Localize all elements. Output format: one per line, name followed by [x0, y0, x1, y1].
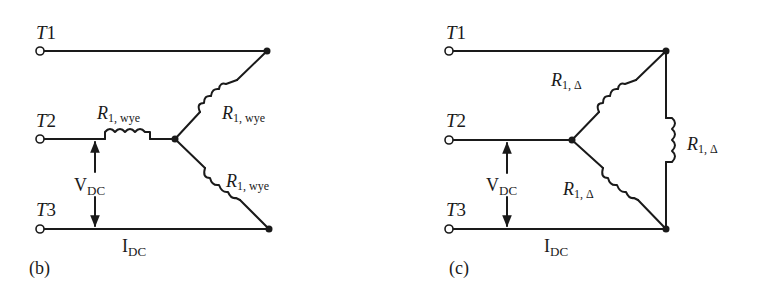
wire — [240, 200, 269, 229]
label-t3: T3 — [36, 200, 56, 219]
label-t2: T2 — [36, 111, 56, 130]
junction-dot — [172, 136, 179, 143]
wire — [636, 51, 666, 80]
terminal-t3-b — [36, 225, 44, 233]
terminal-t1-c — [445, 47, 453, 55]
caption-b: (b) — [29, 259, 50, 277]
junction-dot — [663, 48, 670, 55]
terminal-t2-c — [445, 136, 453, 144]
inductor-r1-wye-left — [105, 129, 150, 139]
caption-c: (c) — [449, 259, 469, 277]
label-t2: T2 — [446, 111, 466, 130]
wire — [638, 200, 666, 229]
label-r1-wye-upper: R1, wye — [222, 104, 265, 124]
label-r1-delta-lower: R1, Δ — [563, 180, 594, 200]
wire — [175, 112, 200, 139]
terminal-t2-b — [36, 135, 44, 143]
label-r1-delta-right: R1, Δ — [687, 135, 718, 155]
junction-dot — [266, 226, 273, 233]
inductor-r1-delta-upper — [598, 80, 636, 112]
label-t1: T1 — [446, 23, 466, 42]
label-vdc: VDC — [74, 176, 105, 197]
junction-dot — [264, 48, 271, 55]
inductor-r1-delta-right — [666, 118, 675, 162]
wire — [237, 51, 267, 80]
label-t1: T1 — [36, 23, 56, 42]
label-idc: IDC — [544, 237, 568, 258]
inductor-r1-delta-lower — [602, 168, 638, 200]
label-r1-wye-lower: R1, wye — [226, 172, 269, 192]
label-r1-delta-upper: R1, Δ — [551, 71, 582, 91]
label-t3: T3 — [446, 200, 466, 219]
label-r1-wye-left: R1, wye — [97, 104, 140, 124]
figure-b-wye — [44, 51, 269, 229]
terminal-t3-c — [445, 225, 453, 233]
wire — [572, 112, 599, 140]
junction-dot — [569, 137, 576, 144]
label-idc: IDC — [122, 237, 146, 258]
terminal-t1-b — [36, 47, 44, 55]
wire — [175, 139, 205, 168]
circuit-diagrams — [0, 0, 765, 296]
junction-dot — [663, 226, 670, 233]
wire — [572, 140, 603, 168]
label-vdc: VDC — [486, 176, 517, 197]
